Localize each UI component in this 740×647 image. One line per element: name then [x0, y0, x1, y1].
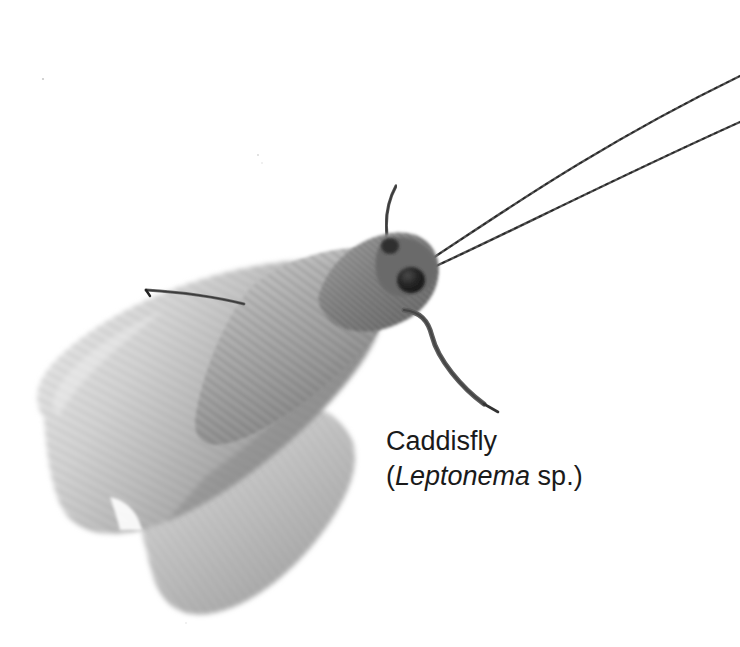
compound-eye-secondary-icon	[381, 238, 399, 254]
photo-speck	[257, 154, 259, 156]
caption-open-paren: (	[386, 461, 395, 491]
compound-eye-icon	[397, 267, 425, 293]
caption-common-name: Caddisfly	[386, 424, 583, 459]
specimen-caption: Caddisfly (Leptonema sp.)	[386, 424, 583, 494]
photo-speck	[185, 622, 187, 624]
photo-speck	[261, 162, 263, 164]
caddisfly-specimen-photo	[0, 0, 740, 647]
caption-genus: Leptonema	[395, 461, 530, 491]
photo-speck	[42, 78, 44, 80]
caption-species-qualifier: sp.	[530, 461, 574, 491]
figure-panel: Caddisfly (Leptonema sp.)	[0, 0, 740, 647]
caption-close-paren: )	[574, 461, 583, 491]
caption-scientific-name: (Leptonema sp.)	[386, 459, 583, 494]
